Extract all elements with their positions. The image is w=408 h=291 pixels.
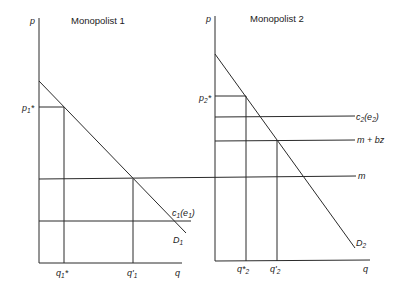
q2-star-label: q*2: [237, 264, 250, 275]
demand-curve-1: [39, 81, 186, 233]
cost-label-2: c2(e2): [356, 112, 379, 123]
demand-label-2: D2: [356, 238, 367, 249]
q-axis-2: [215, 260, 370, 261]
m-plus-bz-line: [215, 140, 355, 141]
demand-curve-2: [215, 54, 355, 248]
panel-title-2: Monopolist 2: [250, 13, 304, 24]
cost-label-1: c1(e1): [172, 208, 195, 219]
panel-monopolist-2: p Monopolist 2 p2* c2(e2) m + bz m D2 q*…: [198, 13, 385, 275]
cost-line-2: [215, 116, 355, 117]
m-line: [39, 176, 356, 179]
p2-star-label: p2*: [198, 93, 212, 104]
m-label: m: [358, 171, 366, 181]
q-axis-label-1: q: [175, 268, 180, 278]
monopolist-diagram: p Monopolist 1 p1* c1(e1) D1 q1* q'1 q p…: [0, 0, 408, 291]
m-plus-bz-label: m + bz: [357, 135, 385, 145]
q2-prime-label: q'2: [270, 264, 281, 275]
q1-prime-label: q'1: [127, 268, 138, 279]
demand-label-1: D1: [173, 235, 184, 246]
p1-star-label: p1*: [21, 103, 35, 114]
q-axis-label-2: q: [363, 264, 368, 274]
q1-star-label: q1*: [56, 268, 69, 279]
panel-monopolist-1: p Monopolist 1 p1* c1(e1) D1 q1* q'1 q: [21, 15, 195, 279]
p-axis-label-2: p: [205, 14, 211, 24]
p-axis-label-1: p: [29, 16, 35, 26]
panel-title-1: Monopolist 1: [71, 15, 125, 26]
